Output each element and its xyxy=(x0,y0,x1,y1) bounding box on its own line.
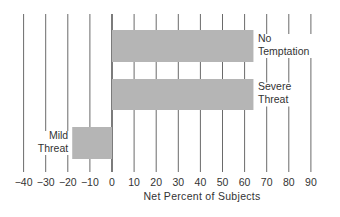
bar-label: Threat xyxy=(258,93,288,105)
x-tick-label: 30 xyxy=(172,176,184,188)
bar xyxy=(112,79,253,110)
x-tick-label: 10 xyxy=(128,176,140,188)
x-tick-label: 0 xyxy=(109,176,115,188)
x-tick-label: 20 xyxy=(150,176,162,188)
bar-label: No xyxy=(258,32,272,44)
x-tick-labels: −40−30−20−100102030405060708090 xyxy=(15,176,317,188)
x-tick-label: −30 xyxy=(37,176,55,188)
x-tick-label: −20 xyxy=(59,176,77,188)
x-axis-label: Net Percent of Subjects xyxy=(143,190,260,202)
bar-label: Temptation xyxy=(258,45,310,57)
bar xyxy=(112,30,253,62)
x-tick-label: 50 xyxy=(217,176,229,188)
bar xyxy=(72,127,112,159)
x-tick-label: 90 xyxy=(305,176,317,188)
bar-chart: NoTemptationSevereThreatMildThreat −40−3… xyxy=(0,0,340,217)
x-tick-label: −10 xyxy=(81,176,99,188)
bar-label: Mild xyxy=(49,129,68,141)
x-tick-label: 70 xyxy=(261,176,273,188)
bar-label: Threat xyxy=(38,142,68,154)
bar-label: Severe xyxy=(258,80,291,92)
x-tick-label: 40 xyxy=(195,176,207,188)
x-tick-label: 60 xyxy=(239,176,251,188)
x-tick-label: −40 xyxy=(15,176,33,188)
x-tick-label: 80 xyxy=(283,176,295,188)
bars xyxy=(72,30,253,159)
